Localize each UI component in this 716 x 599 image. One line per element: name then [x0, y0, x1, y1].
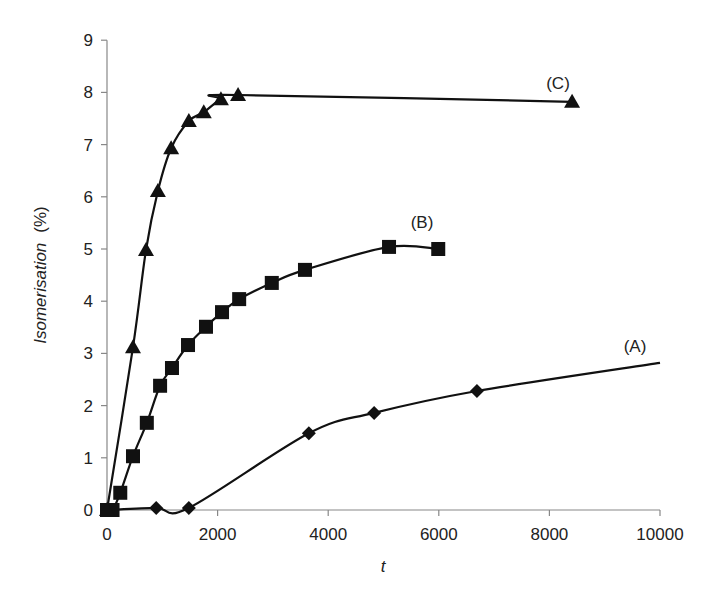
- diamond-marker: [470, 384, 484, 398]
- triangle-marker: [125, 339, 141, 353]
- axes: 01234567890200040006000800010000: [84, 31, 684, 544]
- y-tick-label: 0: [84, 501, 93, 520]
- square-marker: [165, 361, 179, 375]
- x-tick-label: 0: [102, 525, 111, 544]
- series-square: (B): [100, 213, 445, 517]
- square-marker: [232, 292, 246, 306]
- triangle-marker: [181, 113, 197, 127]
- x-tick-label: 8000: [530, 525, 568, 544]
- y-tick-label: 7: [84, 136, 93, 155]
- y-tick-label: 4: [84, 292, 93, 311]
- x-tick-label: 4000: [309, 525, 347, 544]
- diamond-marker: [182, 501, 196, 515]
- x-tick-label: 2000: [199, 525, 237, 544]
- square-marker: [113, 486, 127, 500]
- triangle-marker: [196, 104, 212, 118]
- y-tick-label: 8: [84, 83, 93, 102]
- y-tick-label: 1: [84, 449, 93, 468]
- square-marker: [265, 276, 279, 290]
- triangle-marker: [213, 91, 229, 105]
- x-axis-title: t: [381, 557, 387, 576]
- series-line: [107, 95, 572, 510]
- series-group: (A)(B)(C): [99, 74, 660, 517]
- y-axis-title-text: Isomerisation: [31, 243, 50, 344]
- square-marker: [382, 240, 396, 254]
- series-line: [107, 363, 660, 514]
- series-diamond: (A): [100, 337, 660, 517]
- square-marker: [153, 379, 167, 393]
- square-marker: [199, 320, 213, 334]
- square-marker: [126, 449, 140, 463]
- diamond-marker: [302, 426, 316, 440]
- series-label: (C): [546, 74, 570, 93]
- y-tick-label: 5: [84, 240, 93, 259]
- square-marker: [215, 305, 229, 319]
- triangle-marker: [163, 140, 179, 154]
- diamond-marker: [367, 406, 381, 420]
- y-tick-label: 9: [84, 31, 93, 50]
- triangle-marker: [138, 242, 154, 256]
- y-tick-label: 6: [84, 188, 93, 207]
- square-marker: [140, 416, 154, 430]
- x-tick-label: 10000: [636, 525, 683, 544]
- series-triangle: (C): [99, 74, 580, 516]
- series-label: (A): [624, 337, 647, 356]
- y-axis-title-unit: (%): [31, 206, 50, 232]
- y-tick-label: 3: [84, 344, 93, 363]
- square-marker: [298, 263, 312, 277]
- y-tick-label: 2: [84, 397, 93, 416]
- x-tick-label: 6000: [420, 525, 458, 544]
- diamond-marker: [149, 501, 163, 515]
- square-marker: [181, 338, 195, 352]
- square-marker: [431, 242, 445, 256]
- isomerisation-chart: 01234567890200040006000800010000 (A)(B)(…: [0, 0, 716, 599]
- triangle-marker: [150, 183, 166, 197]
- series-label: (B): [411, 213, 434, 232]
- y-axis-title: Isomerisation(%): [31, 206, 50, 344]
